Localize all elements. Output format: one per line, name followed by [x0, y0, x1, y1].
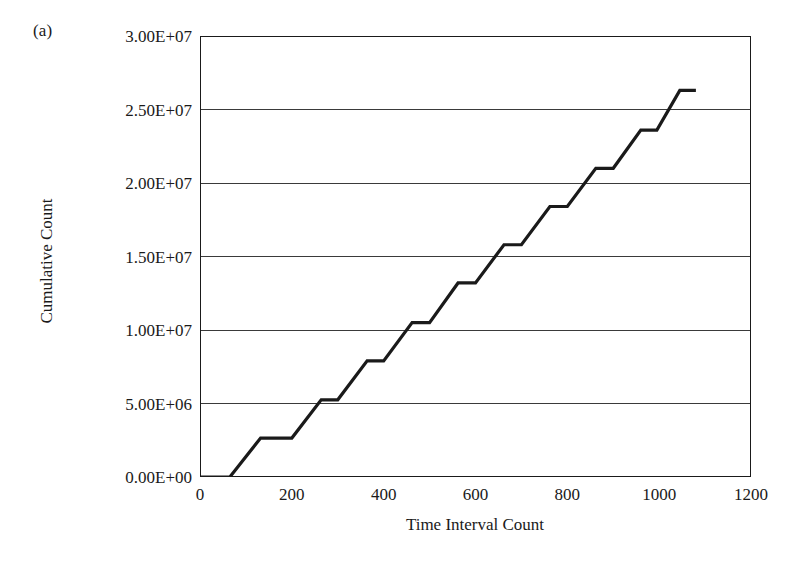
y-tick-label: 1.50E+07 — [42, 249, 192, 266]
y-tick-label: 5.00E+06 — [42, 396, 192, 413]
plot-area — [200, 36, 751, 477]
y-tick-label: 0.00E+00 — [42, 469, 192, 486]
grid-lines — [200, 110, 751, 404]
x-axis-tick-labels: 020040060080010001200 — [0, 486, 812, 512]
y-axis-tick-labels: 0.00E+005.00E+061.00E+071.50E+072.00E+07… — [42, 0, 192, 562]
x-axis-title: Time Interval Count — [200, 516, 750, 533]
figure-panel-a: (a) Cumulative Count 0.00E+005.00E+061.0… — [0, 0, 812, 562]
x-tick-label: 1200 — [691, 486, 811, 503]
y-tick-label: 3.00E+07 — [42, 28, 192, 45]
data-series-line — [200, 90, 696, 477]
y-tick-label: 1.00E+07 — [42, 322, 192, 339]
y-tick-label: 2.00E+07 — [42, 175, 192, 192]
y-tick-label: 2.50E+07 — [42, 102, 192, 119]
plot-svg — [200, 36, 751, 477]
